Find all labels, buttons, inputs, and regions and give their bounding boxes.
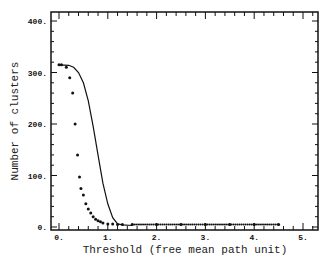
x-axis-label: Threshold (free mean path unit)	[83, 244, 288, 256]
y-tick-label: 300.	[28, 69, 47, 78]
x-tick-label: 3.	[201, 233, 211, 242]
y-tick-label: 0.	[37, 223, 47, 232]
data-point	[228, 223, 231, 226]
data-point	[79, 187, 82, 190]
chart: 0.100.200.300.400. 0.1.2.3.4.5. Threshol…	[0, 0, 324, 275]
data-point	[204, 223, 207, 226]
data-point	[78, 176, 81, 179]
data-point	[155, 223, 158, 226]
x-tick-label: 5.	[298, 233, 308, 242]
data-point	[71, 92, 74, 95]
y-axis-ticks: 0.100.200.300.400.	[28, 17, 318, 232]
data-point	[74, 123, 77, 126]
data-point	[82, 194, 85, 197]
data-point	[92, 215, 95, 218]
data-point	[65, 66, 68, 69]
y-tick-label: 200.	[28, 120, 47, 129]
data-point	[89, 212, 92, 215]
x-tick-label: 2.	[152, 233, 162, 242]
plot-frame	[51, 12, 318, 230]
data-point	[253, 223, 256, 226]
data-point	[76, 153, 79, 156]
data-series	[58, 63, 281, 226]
y-tick-label: 400.	[28, 17, 47, 26]
data-point	[180, 223, 183, 226]
data-point	[87, 207, 90, 210]
data-point	[106, 222, 109, 225]
x-tick-label: 4.	[249, 233, 259, 242]
data-point	[84, 202, 87, 205]
data-point	[68, 76, 71, 79]
x-tick-label: 0.	[54, 233, 64, 242]
curve-line	[59, 65, 132, 226]
data-point	[277, 223, 280, 226]
y-tick-label: 100.	[28, 172, 47, 181]
data-point	[111, 222, 114, 225]
y-axis-label: Number of clusters	[9, 62, 21, 181]
data-point	[101, 221, 104, 224]
x-tick-label: 1.	[103, 233, 113, 242]
